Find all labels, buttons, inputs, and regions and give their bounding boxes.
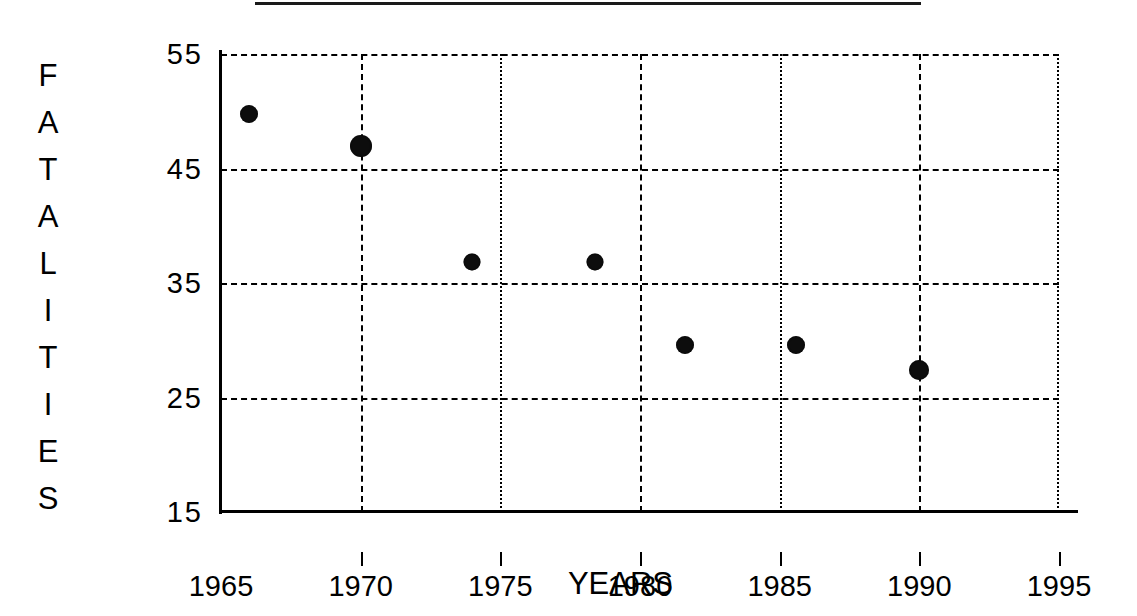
y-axis-tick-label: 35 — [167, 267, 203, 300]
data-point — [587, 254, 604, 271]
y-axis-tick-label: 55 — [167, 38, 203, 71]
y-axis-tick-label: 25 — [167, 381, 203, 414]
data-point — [350, 135, 372, 157]
x-axis-tick-mark — [919, 552, 921, 566]
y-axis-title-letter: A — [38, 193, 59, 240]
y-axis-title-letter: A — [38, 99, 59, 146]
y-axis-title-letter: E — [38, 428, 59, 475]
y-axis-title-letter: T — [39, 334, 58, 381]
gridline-vertical — [780, 54, 782, 512]
y-axis-title-letter: S — [38, 475, 59, 522]
x-axis-tick-mark — [640, 552, 642, 566]
gridline-vertical — [919, 54, 921, 512]
plot-area: 1525354555 1965197019751980198519901995 — [221, 54, 1059, 512]
x-axis-tick-mark — [500, 552, 502, 566]
gridline-vertical — [640, 54, 642, 512]
y-axis-tick-label: 45 — [167, 152, 203, 185]
gridline-vertical — [500, 54, 502, 512]
y-axis-title-letter: I — [44, 287, 53, 334]
data-point — [464, 254, 481, 271]
x-axis-title: YEARS — [0, 566, 1137, 602]
x-axis-title-text: YEARS — [568, 566, 673, 601]
data-point — [676, 336, 694, 354]
y-axis-title-letter: I — [44, 381, 53, 428]
y-axis-title: FATALITIES — [18, 52, 78, 522]
data-point — [240, 105, 258, 123]
gridline-vertical — [361, 54, 363, 512]
y-axis-tick-label: 15 — [167, 496, 203, 529]
title-underline-rule — [255, 2, 921, 5]
x-axis-tick-mark — [1059, 552, 1061, 566]
x-axis-tick-mark — [780, 552, 782, 566]
data-point — [909, 360, 929, 380]
chart-figure: FATALITIES 1525354555 196519701975198019… — [0, 0, 1137, 616]
y-axis-title-letter: T — [39, 146, 58, 193]
data-point — [787, 336, 805, 354]
y-axis-title-letter: F — [39, 52, 58, 99]
x-axis-tick-mark — [361, 552, 363, 566]
y-axis-title-letter: L — [39, 240, 56, 287]
